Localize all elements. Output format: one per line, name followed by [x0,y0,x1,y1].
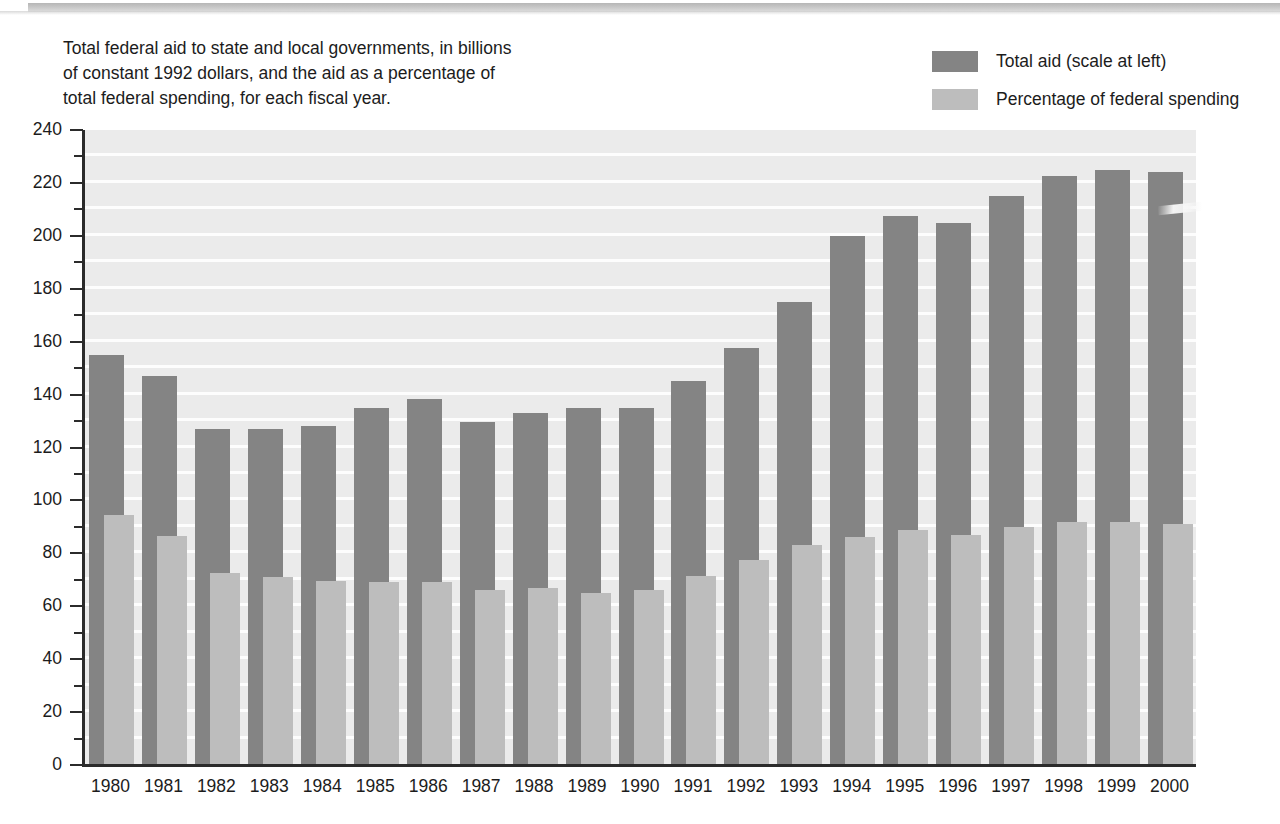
percentage-bar: 15.0% [1004,527,1034,765]
x-axis-tick-label: 1984 [296,776,349,797]
y-axis-minor-tick [74,314,83,316]
x-axis-tick-label: 1982 [190,776,243,797]
y-axis-minor-tick [74,367,83,369]
y-axis-tick-label: 20 [16,701,62,722]
bar-group: 10.9% [513,130,566,765]
bars-layer: 15.4%14.0%11.8%11.5%11.4%11.2%11.3%10.8%… [84,130,1196,765]
y-axis-tick [70,235,83,237]
y-axis-tick-label: 100 [16,489,62,510]
chart-caption: Total federal aid to state and local gov… [63,36,683,111]
legend-item: Percentage of federal spending [932,84,1277,115]
percentage-bar: 15.3% [1110,522,1140,765]
legend-swatch-total-aid [932,51,978,72]
legend-swatch-percentage [932,89,978,110]
x-axis-tick-label: 1998 [1037,776,1090,797]
y-axis-minor-tick [74,420,83,422]
legend-item-label: Percentage of federal spending [996,89,1239,110]
bar-group: 14.6% [936,130,989,765]
y-axis-tick [70,394,83,396]
y-axis-tick [70,129,83,131]
y-axis-tick [70,658,83,660]
y-axis-minor-tick [74,526,83,528]
percentage-bar: 10.8% [475,590,505,765]
y-axis-tick-label: 60 [16,595,62,616]
bar-group: 10.8% [619,130,672,765]
x-axis-tick-label: 2000 [1143,776,1196,797]
y-axis-tick-label: 140 [16,384,62,405]
bar-group: 11.8% [195,130,248,765]
x-axis-tick-label: 1988 [508,776,561,797]
x-axis-tick-label: 1983 [243,776,296,797]
y-axis-tick-label: 240 [16,119,62,140]
legend-item: Total aid (scale at left) [932,46,1277,77]
y-axis-tick-label: 0 [16,754,62,775]
y-axis-tick [70,711,83,713]
y-axis-tick [70,288,83,290]
y-axis-minor-tick [74,261,83,263]
y-axis-tick-label: 120 [16,437,62,458]
chart-legend: Total aid (scale at left)Percentage of f… [932,46,1277,122]
x-axis-tick-label: 1990 [614,776,667,797]
percentage-bar: 11.4% [316,581,346,765]
y-axis-minor-tick [74,685,83,687]
percentage-bar: 15.3% [1057,522,1087,765]
percentage-bar: 11.3% [422,582,452,765]
bar-group: 15.2% [1148,130,1201,765]
bar-group: 10.8% [460,130,513,765]
x-axis-tick-label: 1997 [984,776,1037,797]
x-axis-tick-label: 1980 [84,776,137,797]
bar-group: 13.7% [777,130,830,765]
y-axis-tick-label: 40 [16,648,62,669]
percentage-bar: 11.2% [369,582,399,765]
y-axis-minor-tick [74,473,83,475]
chart-page: Total federal aid to state and local gov… [0,0,1280,824]
percentage-bar: 12.8% [739,560,769,765]
y-axis-tick-label: 180 [16,278,62,299]
y-axis-minor-tick [74,579,83,581]
x-axis-tick-label: 1987 [455,776,508,797]
x-axis-tick-label: 1986 [402,776,455,797]
percentage-bar: 11.7% [686,576,716,765]
bar-group: 11.2% [354,130,407,765]
bar-group: 14.8% [883,130,936,765]
y-axis-tick [70,499,83,501]
bar-group: 10.6% [566,130,619,765]
x-axis-tick-label: 1996 [931,776,984,797]
percentage-bar: 10.8% [634,590,664,765]
bar-group: 14.4% [830,130,883,765]
x-axis-tick-label: 1999 [1090,776,1143,797]
y-axis-minor-tick [74,155,83,157]
percentage-bar: 14.0% [157,536,187,765]
y-axis-minor-tick [74,738,83,740]
percentage-bar: 13.7% [792,545,822,765]
y-axis-tick-label: 160 [16,331,62,352]
bar-group: 11.4% [301,130,354,765]
bar-group: 15.0% [989,130,1042,765]
bar-group: 15.3% [1095,130,1148,765]
y-axis-tick [70,182,83,184]
y-axis-tick [70,341,83,343]
scan-artifact-band-secondary [0,11,1280,15]
legend-item-label: Total aid (scale at left) [996,51,1166,72]
y-axis-tick-label: 80 [16,542,62,563]
y-axis-minor-tick [74,208,83,210]
percentage-bar: 14.4% [845,537,875,765]
bar-group: 12.8% [724,130,777,765]
y-axis-tick [70,552,83,554]
plot-area: 15.4%14.0%11.8%11.5%11.4%11.2%11.3%10.8%… [84,130,1196,765]
x-axis-tick-label: 1985 [349,776,402,797]
bar-group: 14.0% [142,130,195,765]
x-axis-tick-label: 1995 [878,776,931,797]
x-axis-line [82,764,1196,767]
y-axis-tick-label: 220 [16,172,62,193]
percentage-bar: 15.4% [104,515,134,765]
bar-group: 15.3% [1042,130,1095,765]
bar-group: 15.4% [89,130,142,765]
y-axis-tick [70,764,83,766]
bar-group: 11.7% [671,130,724,765]
y-axis-tick [70,447,83,449]
x-axis-tick-label: 1993 [772,776,825,797]
y-axis-tick [70,605,83,607]
percentage-bar: 15.2% [1163,524,1193,765]
x-axis-tick-label: 1989 [561,776,614,797]
